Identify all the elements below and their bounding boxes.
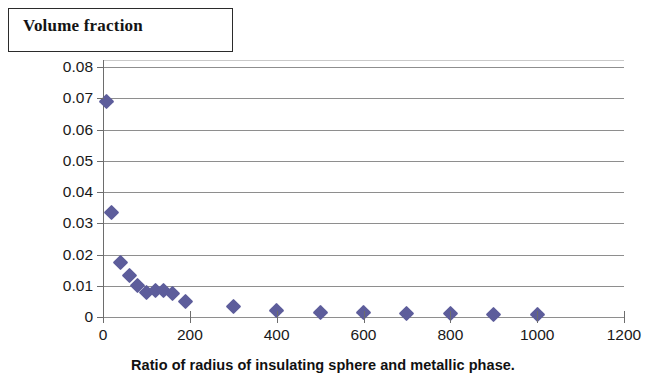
gridline [103, 161, 624, 162]
y-axis-tick-text: 0.06 [45, 121, 93, 139]
y-axis-tick-label: 0.04 [41, 183, 93, 201]
y-axis-tick-label: 0.03 [41, 214, 93, 232]
x-axis-tick-label: 0 [68, 326, 138, 344]
x-axis-tick-label: 1000 [502, 326, 572, 344]
y-axis-tick-text: 0.02 [45, 246, 93, 264]
y-axis-tick [97, 223, 104, 224]
y-axis-tick-text: 0.03 [45, 214, 93, 232]
data-point-marker [113, 255, 129, 271]
gridline [103, 130, 624, 131]
x-axis-tick-label: 800 [415, 326, 485, 344]
x-axis-tick-label: 200 [155, 326, 225, 344]
y-axis-tick-label: 0 [41, 308, 93, 326]
y-axis-tick [97, 130, 104, 131]
plot-top-rule [103, 60, 624, 61]
chart-title-box: Volume fraction [8, 8, 233, 52]
gridline [103, 67, 624, 68]
x-axis-end-tick [624, 311, 625, 323]
x-axis-tick [364, 311, 365, 323]
x-axis-tick [190, 311, 191, 323]
gridline [103, 286, 624, 287]
data-point-marker [104, 205, 120, 221]
x-axis-tick-label: 1200 [589, 326, 646, 344]
y-axis-tick [97, 67, 104, 68]
y-axis-tick-text: 0 [45, 308, 93, 326]
x-axis-tick-label: 600 [329, 326, 399, 344]
y-axis-tick-text: 0.04 [45, 183, 93, 201]
y-axis-tick-text: 0.05 [45, 152, 93, 170]
y-axis-tick-label: 0.05 [41, 152, 93, 170]
gridline [103, 223, 624, 224]
y-axis-tick-label: 0.02 [41, 246, 93, 264]
x-axis-title: Ratio of radius of insulating sphere and… [0, 357, 646, 373]
gridline [103, 192, 624, 193]
data-point-marker [486, 306, 502, 322]
y-axis-tick [97, 286, 104, 287]
y-axis-tick-text: 0.01 [45, 277, 93, 295]
y-axis-tick [97, 98, 104, 99]
data-point-marker [399, 305, 415, 321]
x-axis-tick [450, 311, 451, 323]
gridline [103, 255, 624, 256]
y-axis-tick-label: 0.01 [41, 277, 93, 295]
data-point-marker [99, 94, 115, 110]
data-point-marker [225, 298, 241, 314]
y-axis-tick-label: 0.06 [41, 121, 93, 139]
y-axis-tick-text: 0.07 [45, 89, 93, 107]
chart-title: Volume fraction [23, 16, 143, 36]
y-axis-tick-label: 0.08 [41, 58, 93, 76]
y-axis-tick-label: 0.07 [41, 89, 93, 107]
y-axis-tick [97, 161, 104, 162]
plot-area [103, 67, 624, 317]
x-axis-tick [537, 311, 538, 323]
gridline [103, 98, 624, 99]
y-axis-tick-text: 0.08 [45, 58, 93, 76]
y-axis-tick [97, 255, 104, 256]
x-axis-tick [277, 311, 278, 323]
data-point-marker [178, 294, 194, 310]
y-axis-tick [97, 192, 104, 193]
x-axis-tick-label: 400 [242, 326, 312, 344]
x-axis-tick [103, 311, 104, 323]
